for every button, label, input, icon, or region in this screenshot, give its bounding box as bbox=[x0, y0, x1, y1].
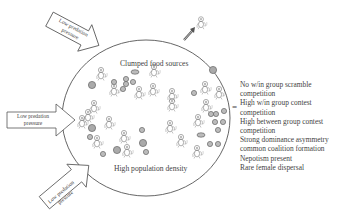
population-density-label: High population density bbox=[114, 164, 187, 173]
outcome-line: Rare female dispersal bbox=[240, 163, 329, 172]
arrow-label-left: Low predation pressure bbox=[12, 113, 54, 126]
outcome-line: Strong dominance asymmetry bbox=[240, 135, 329, 144]
outcome-line: competition bbox=[240, 126, 329, 135]
outcome-line: competition bbox=[240, 89, 329, 98]
outcome-line: Nepotism present bbox=[240, 154, 329, 163]
outcomes-list: No w/in group scramble competition High … bbox=[240, 80, 329, 172]
food-source-icons bbox=[87, 66, 226, 156]
clumped-food-label: Clumped food sources bbox=[120, 59, 188, 68]
dispersal-arrow-icon bbox=[184, 17, 207, 40]
equals-sign: = bbox=[232, 102, 237, 112]
outcome-line: common coalition formation bbox=[240, 144, 329, 153]
outcome-line: High between group contest bbox=[240, 117, 329, 126]
monkey-icons bbox=[78, 64, 225, 158]
outcome-line: competition bbox=[240, 108, 329, 117]
arrow-label-text: Low predation pressure bbox=[17, 113, 49, 126]
outcome-line: High w/in group contest bbox=[240, 98, 329, 107]
outcome-line: No w/in group scramble bbox=[240, 80, 329, 89]
